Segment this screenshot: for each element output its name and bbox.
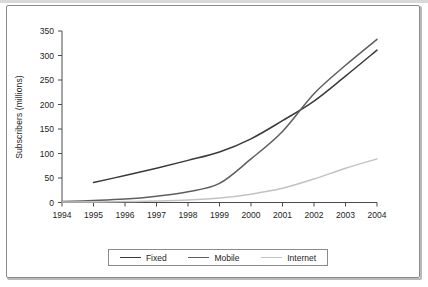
x-tick-label: 2004 (357, 210, 397, 220)
legend-label: Fixed (146, 253, 167, 263)
series-line-internet (62, 159, 377, 202)
y-tick-label: 100 (18, 149, 54, 159)
legend-label: Mobile (214, 253, 239, 263)
y-tick-label: 0 (18, 198, 54, 208)
legend-item-mobile: Mobile (188, 253, 239, 263)
legend-item-internet: Internet (261, 253, 316, 263)
series-line-mobile (62, 39, 377, 201)
y-tick-label: 350 (18, 26, 54, 36)
legend-swatch-mobile-icon (188, 257, 209, 258)
chart-figure: Subscribers (millions) 05010015020025030… (0, 0, 428, 287)
series-group (62, 39, 377, 202)
legend-label: Internet (287, 253, 316, 263)
y-tick-label: 200 (18, 100, 54, 110)
y-tick-label: 50 (18, 173, 54, 183)
y-tick-label: 250 (18, 75, 54, 85)
y-tick-label: 150 (18, 124, 54, 134)
y-tick-label: 300 (18, 51, 54, 61)
series-line-fixed (94, 50, 378, 182)
legend-swatch-internet-icon (261, 257, 282, 258)
chart-legend: FixedMobileInternet (108, 249, 328, 266)
line-chart-plot (0, 0, 428, 287)
legend-item-fixed: Fixed (120, 253, 167, 263)
legend-swatch-fixed-icon (120, 257, 141, 258)
